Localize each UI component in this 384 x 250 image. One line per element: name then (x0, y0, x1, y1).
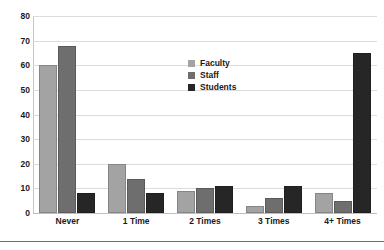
bar-groups (33, 16, 377, 213)
bar-group (308, 16, 377, 213)
y-tick-label-60: 60 (2, 61, 30, 70)
legend-item-label: Faculty (200, 59, 230, 68)
y-tick-label-40: 40 (2, 110, 30, 119)
y-tick-label-50: 50 (2, 86, 30, 95)
bar-staff (196, 188, 214, 213)
legend-item-students: Students (188, 82, 236, 93)
legend-swatch-icon (188, 72, 195, 79)
legend: FacultyStaffStudents (188, 58, 236, 94)
bar-students (215, 186, 233, 213)
x-tick-label: 3 Times (239, 217, 308, 226)
bar-group (102, 16, 171, 213)
plot-area (33, 16, 377, 213)
legend-swatch-icon (188, 84, 195, 91)
x-axis-tick-labels: Never1 Time2 Times3 Times4+ Times (33, 217, 377, 226)
x-tick-label: 4+ Times (308, 217, 377, 226)
bar-students (353, 53, 371, 213)
y-axis-tick-labels: 80706050403020100 (0, 0, 30, 250)
bar-students (77, 193, 95, 213)
x-tick-label: 2 Times (171, 217, 240, 226)
bar-group (171, 16, 240, 213)
x-tick-label: 1 Time (102, 217, 171, 226)
grouped-bar-chart: 80706050403020100 Never1 Time2 Times3 Ti… (0, 0, 384, 250)
y-tick-label-80: 80 (2, 12, 30, 21)
bar-staff (334, 201, 352, 213)
bar-group (33, 16, 102, 213)
bar-students (284, 186, 302, 213)
gridline-0 (33, 213, 377, 214)
legend-item-staff: Staff (188, 70, 236, 81)
legend-item-label: Students (200, 83, 236, 92)
bar-faculty (315, 193, 333, 213)
y-tick-label-0: 0 (2, 209, 30, 218)
y-tick-label-10: 10 (2, 184, 30, 193)
bar-faculty (39, 65, 57, 213)
legend-item-faculty: Faculty (188, 58, 236, 69)
legend-item-label: Staff (200, 71, 219, 80)
y-tick-label-30: 30 (2, 135, 30, 144)
bar-faculty (108, 164, 126, 213)
bar-staff (127, 179, 145, 213)
legend-swatch-icon (188, 60, 195, 67)
x-tick-label: Never (33, 217, 102, 226)
bar-faculty (177, 191, 195, 213)
bar-faculty (246, 206, 264, 213)
footer-divider (0, 241, 384, 242)
bar-staff (265, 198, 283, 213)
bar-students (146, 193, 164, 213)
bar-group (239, 16, 308, 213)
y-tick-label-20: 20 (2, 160, 30, 169)
bar-staff (58, 46, 76, 213)
y-tick-label-70: 70 (2, 36, 30, 45)
